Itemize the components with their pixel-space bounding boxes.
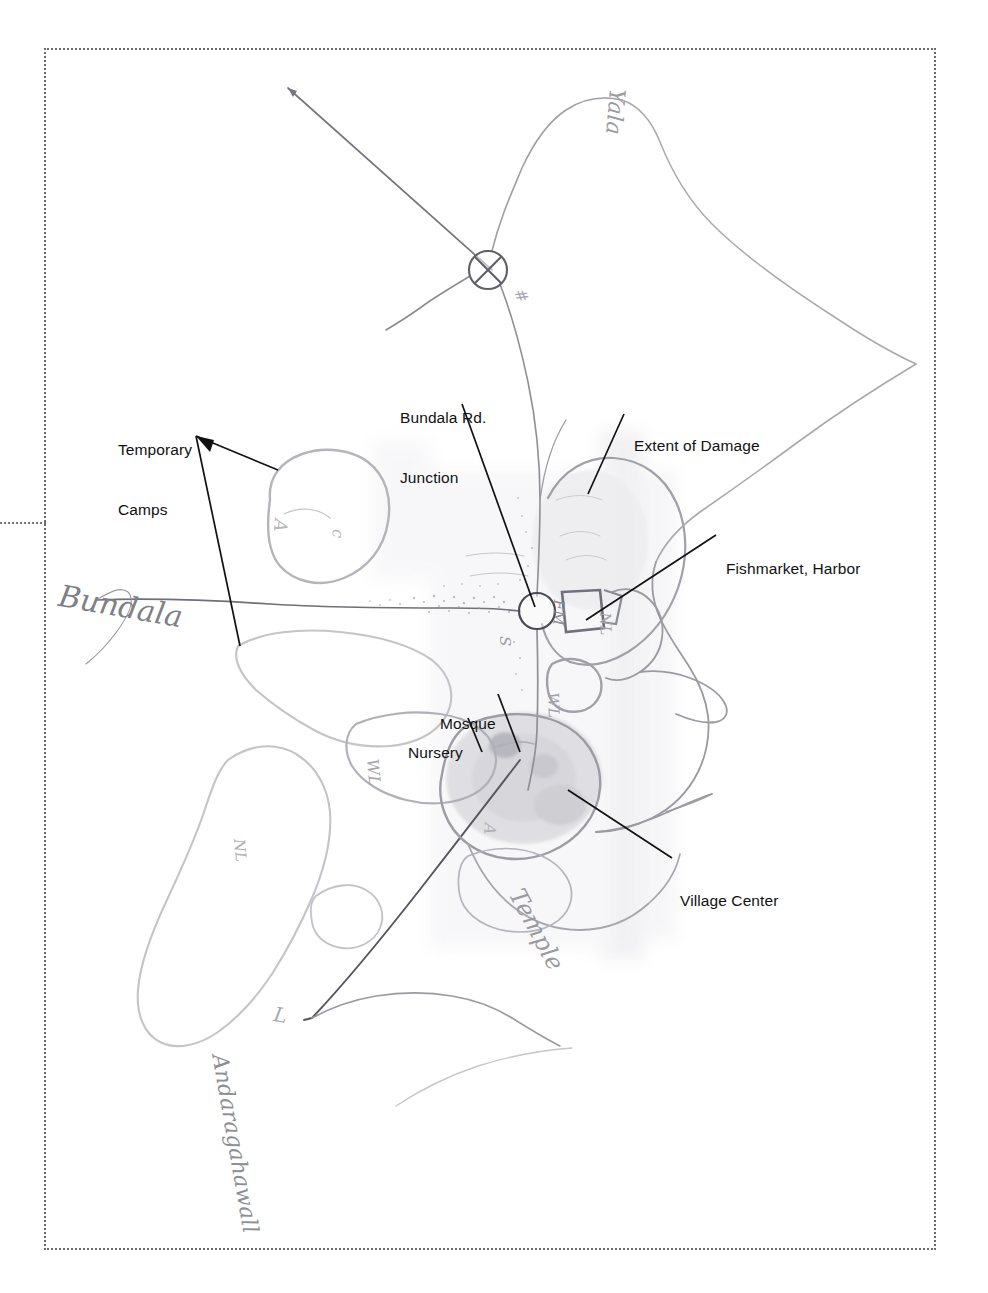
frame-left-tick-mark [0,522,46,524]
page-border-frame [44,48,936,1250]
map-page: Yala Bundala Temple Andaragahawall # WL … [0,0,988,1293]
